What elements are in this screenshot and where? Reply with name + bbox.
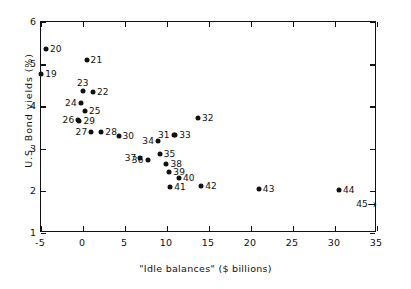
data-point-30	[116, 133, 121, 138]
x-tick-label-30: 30	[328, 237, 341, 248]
data-point-label-30: 30	[123, 131, 135, 141]
x-tick-bottom-35	[377, 226, 378, 231]
data-point-19	[39, 71, 44, 76]
plot-area	[40, 21, 376, 232]
data-point-25	[82, 109, 87, 114]
data-point-36	[145, 158, 150, 163]
x-tick-5	[125, 22, 126, 27]
x-tick-10	[167, 22, 168, 27]
data-point-34	[156, 138, 161, 143]
data-point-43	[256, 187, 261, 192]
data-point-label-35: 35	[164, 149, 176, 159]
data-point-label-29: 29	[83, 116, 95, 126]
y-tick-label-5: 5	[24, 58, 36, 69]
y-tick-label-4: 4	[24, 100, 36, 111]
x-tick-label-10: 10	[160, 237, 173, 248]
data-point-29	[77, 119, 82, 124]
x-tick-bottom-0	[83, 226, 84, 231]
data-point-label-24: 24	[65, 98, 77, 108]
x-tick-25	[293, 22, 294, 27]
y-tick-1	[41, 233, 46, 234]
data-point-20	[43, 47, 48, 52]
x-tick-bottom--5	[41, 226, 42, 231]
data-point-label-33: 33	[179, 130, 191, 140]
x-tick-label-25: 25	[286, 237, 299, 248]
data-point-22	[90, 90, 95, 95]
data-point-45-arrow-icon: →	[367, 198, 376, 209]
y-tick-3	[41, 149, 46, 150]
data-point-41	[168, 185, 173, 190]
data-point-28	[99, 130, 104, 135]
x-tick-0	[83, 22, 84, 27]
data-point-label-44: 44	[343, 185, 355, 195]
y-tick-right-5	[370, 64, 375, 65]
data-point-label-40: 40	[183, 173, 195, 183]
data-point-label-42: 42	[205, 181, 217, 191]
y-tick-5	[41, 64, 46, 65]
y-tick-right-1	[370, 233, 375, 234]
x-axis-title: "Idle balances" ($ billions)	[0, 263, 411, 274]
x-tick-20	[251, 22, 252, 27]
data-point-35	[157, 151, 162, 156]
data-point-label-37: 37	[125, 153, 137, 163]
x-tick-bottom-5	[125, 226, 126, 231]
x-tick-label-15: 15	[202, 237, 215, 248]
data-point-label-20: 20	[50, 44, 62, 54]
data-point-40	[177, 175, 182, 180]
x-tick-label-0: 0	[79, 237, 85, 248]
x-tick-bottom-10	[167, 226, 168, 231]
data-point-23	[80, 88, 85, 93]
data-point-24	[78, 101, 83, 106]
y-tick-right-6	[370, 22, 375, 23]
y-tick-right-2	[370, 191, 375, 192]
data-point-27	[89, 129, 94, 134]
x-tick-35	[377, 22, 378, 27]
x-tick-label-5: 5	[121, 237, 127, 248]
data-point-label-45: 45	[356, 199, 368, 209]
y-tick-6	[41, 22, 46, 23]
data-point-label-21: 21	[91, 55, 103, 65]
x-tick-bottom-15	[209, 226, 210, 231]
y-tick-right-4	[370, 106, 375, 107]
data-point-label-27: 27	[76, 127, 88, 137]
data-point-label-23: 23	[77, 78, 89, 88]
y-tick-2	[41, 191, 46, 192]
data-point-label-25: 25	[89, 106, 101, 116]
data-point-37	[138, 155, 143, 160]
data-point-label-34: 34	[142, 136, 154, 146]
x-tick-30	[335, 22, 336, 27]
x-tick-bottom-20	[251, 226, 252, 231]
x-tick-bottom-25	[293, 226, 294, 231]
data-point-label-22: 22	[97, 87, 109, 97]
x-tick-bottom-30	[335, 226, 336, 231]
x-tick-label--5: -5	[35, 237, 45, 248]
data-point-label-32: 32	[202, 113, 214, 123]
data-point-label-26: 26	[63, 115, 75, 125]
data-point-38	[164, 162, 169, 167]
data-point-39	[167, 169, 172, 174]
data-point-label-19: 19	[45, 69, 57, 79]
y-tick-label-2: 2	[24, 184, 36, 195]
data-point-21	[84, 58, 89, 63]
data-point-33	[173, 132, 178, 137]
y-tick-label-6: 6	[24, 16, 36, 27]
data-point-label-41: 41	[174, 182, 186, 192]
y-tick-label-1: 1	[24, 227, 36, 238]
y-tick-4	[41, 106, 46, 107]
x-tick-label-20: 20	[244, 237, 257, 248]
y-tick-right-3	[370, 149, 375, 150]
data-point-42	[199, 183, 204, 188]
x-tick-15	[209, 22, 210, 27]
data-point-label-43: 43	[263, 184, 275, 194]
x-tick-label-35: 35	[370, 237, 383, 248]
y-tick-label-3: 3	[24, 142, 36, 153]
data-point-44	[337, 187, 342, 192]
data-point-32	[195, 115, 200, 120]
scatter-chart-figure: "Idle balances" ($ billions) U.S. Bond y…	[0, 0, 411, 289]
